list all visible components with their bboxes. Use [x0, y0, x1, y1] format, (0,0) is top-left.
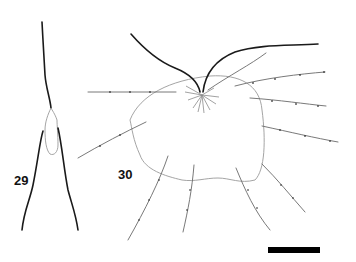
panel-30-drawing — [78, 34, 338, 240]
panel-29-drawing — [22, 22, 78, 230]
scale-bar — [268, 247, 320, 253]
setae-barbs — [100, 71, 330, 220]
figure-drawing — [0, 0, 356, 262]
panel-label-29: 29 — [14, 173, 28, 188]
panel-label-30: 30 — [118, 167, 132, 182]
